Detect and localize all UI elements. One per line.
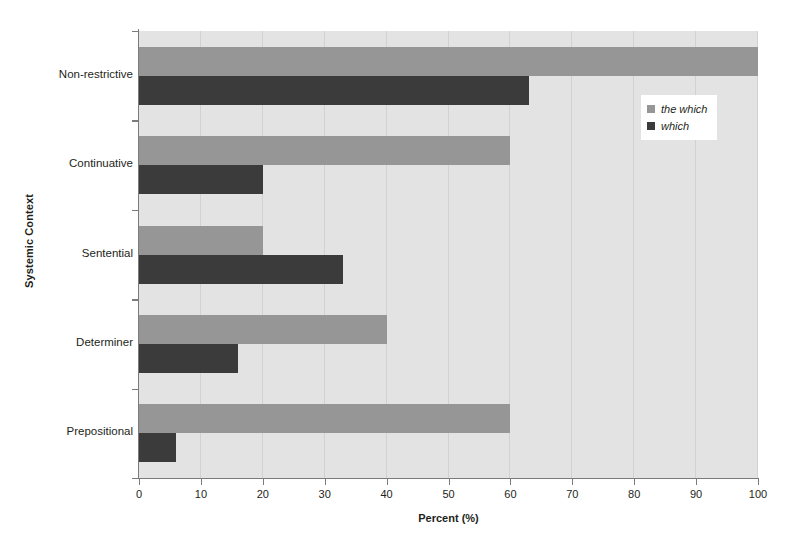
x-tick-label-0: 0	[119, 488, 159, 500]
bar-determiner-which	[139, 344, 238, 373]
x-axis-title: Percent (%)	[139, 512, 758, 524]
bar-prepositional-the-which	[139, 404, 510, 433]
x-tick	[572, 479, 573, 485]
x-tick-label-90: 90	[676, 488, 716, 500]
bar-continuative-which	[139, 165, 263, 194]
y-tick	[132, 478, 139, 479]
x-tick-label-50: 50	[429, 488, 469, 500]
legend-label: the which	[661, 103, 707, 115]
x-tick	[634, 479, 635, 485]
gridline	[571, 31, 572, 478]
x-tick-label-30: 30	[305, 488, 345, 500]
bar-non-restrictive-which	[139, 76, 529, 105]
y-tick	[132, 31, 139, 32]
x-tick-label-70: 70	[552, 488, 592, 500]
legend-item-the-which: the which	[647, 100, 707, 117]
legend-swatch-icon	[647, 105, 655, 113]
y-tick	[132, 120, 139, 121]
bar-determiner-the-which	[139, 315, 387, 344]
bar-prepositional-which	[139, 433, 176, 462]
x-tick-label-60: 60	[490, 488, 530, 500]
y-tick-label-non-restrictive: Non-restrictive	[13, 68, 133, 80]
x-tick	[325, 479, 326, 485]
x-tick-label-40: 40	[367, 488, 407, 500]
y-tick	[132, 299, 139, 300]
x-tick-label-20: 20	[243, 488, 283, 500]
y-tick-label-sentential: Sentential	[13, 247, 133, 259]
bar-continuative-the-which	[139, 136, 510, 165]
x-tick-label-10: 10	[181, 488, 221, 500]
y-axis-tick-labels: Non-restrictiveContinuativeSententialDet…	[10, 31, 133, 478]
bar-sentential-the-which	[139, 226, 263, 255]
x-tick	[696, 479, 697, 485]
x-tick	[510, 479, 511, 485]
legend-label: which	[661, 120, 689, 132]
x-tick	[449, 479, 450, 485]
legend-item-which: which	[647, 117, 707, 134]
x-tick	[263, 479, 264, 485]
y-tick	[132, 389, 139, 390]
y-tick-label-continuative: Continuative	[13, 157, 133, 169]
chart-legend: the whichwhich	[641, 95, 717, 140]
x-tick	[387, 479, 388, 485]
y-tick-label-determiner: Determiner	[13, 336, 133, 348]
y-axis-line	[138, 29, 139, 479]
gridline	[757, 31, 758, 478]
x-tick-label-80: 80	[614, 488, 654, 500]
gridline	[633, 31, 634, 478]
x-tick	[139, 479, 140, 485]
legend-swatch-icon	[647, 122, 655, 130]
x-tick-label-100: 100	[738, 488, 778, 500]
bar-chart-figure: Systemic Context Non-restrictiveContinua…	[0, 0, 795, 553]
y-tick	[132, 210, 139, 211]
y-tick-label-prepositional: Prepositional	[13, 425, 133, 437]
x-tick	[758, 479, 759, 485]
x-tick	[201, 479, 202, 485]
bar-non-restrictive-the-which	[139, 47, 758, 76]
bar-sentential-which	[139, 255, 343, 284]
